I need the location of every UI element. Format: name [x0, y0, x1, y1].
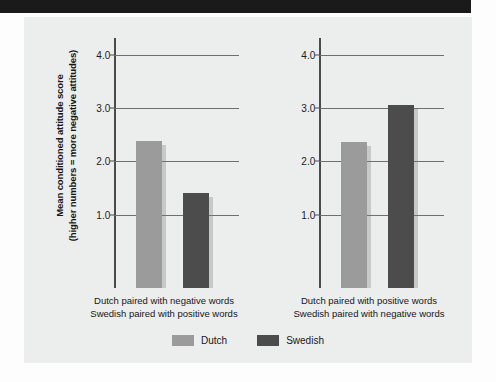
right-tickmark-3 — [315, 108, 320, 109]
right-y-axis-line — [319, 38, 321, 288]
chart-figure: Mean conditioned attitude score (higher … — [24, 17, 472, 363]
right-gridline-4 — [319, 55, 444, 56]
left-caption-line1: Dutch paired with negative words — [84, 294, 244, 307]
left-gridline-3 — [114, 108, 239, 109]
bar-right-dutch-body — [341, 142, 367, 288]
right-tickmark-4 — [315, 55, 320, 56]
left-ytick-label-4: 4.0 — [96, 50, 110, 61]
left-y-axis-line — [114, 38, 116, 288]
left-tickmark-2 — [110, 161, 115, 162]
legend-item-swedish[interactable]: Swedish — [257, 335, 324, 346]
bar-right-dutch[interactable] — [341, 142, 367, 288]
bar-right-swedish-body — [388, 105, 414, 288]
chart-legend: Dutch Swedish — [24, 335, 472, 346]
right-plot-area: 4.0 3.0 2.0 1.0 — [319, 38, 444, 288]
right-ytick-label-2: 2.0 — [301, 156, 315, 167]
right-gridline-3 — [319, 108, 444, 109]
bar-right-swedish[interactable] — [388, 105, 414, 288]
right-caption-line1: Dutch paired with positive words — [289, 294, 449, 307]
left-gridline-4 — [114, 55, 239, 56]
left-ytick-label-1: 1.0 — [96, 210, 110, 221]
left-ytick-label-2: 2.0 — [96, 156, 110, 167]
left-tickmark-4 — [110, 55, 115, 56]
right-gridline-2 — [319, 161, 444, 162]
right-caption-line2: Swedish paired with negative words — [289, 307, 449, 320]
legend-label-swedish: Swedish — [286, 335, 324, 346]
right-tickmark-1 — [315, 215, 320, 216]
bar-left-swedish[interactable] — [183, 193, 209, 288]
right-panel-caption: Dutch paired with positive words Swedish… — [289, 294, 449, 320]
legend-swatch-swedish-icon — [257, 335, 279, 346]
bar-left-dutch-shadow — [162, 145, 166, 288]
bar-left-swedish-shadow — [209, 197, 213, 288]
y-axis-title: Mean conditioned attitude score (higher … — [54, 46, 79, 246]
right-ytick-label-3: 3.0 — [301, 103, 315, 114]
right-gridline-1 — [319, 215, 444, 216]
bar-left-swedish-body — [183, 193, 209, 288]
left-tickmark-1 — [110, 215, 115, 216]
top-black-banner — [0, 0, 471, 13]
left-gridline-1 — [114, 215, 239, 216]
y-axis-title-line1: Mean conditioned attitude score — [54, 46, 67, 246]
y-axis-title-line2: (higher numbers = more negative attitude… — [66, 46, 79, 246]
bar-right-swedish-shadow — [414, 109, 418, 288]
right-tickmark-2 — [315, 161, 320, 162]
legend-item-dutch[interactable]: Dutch — [172, 335, 227, 346]
right-ytick-label-4: 4.0 — [301, 50, 315, 61]
figure-page: Mean conditioned attitude score (higher … — [0, 0, 496, 382]
left-panel-caption: Dutch paired with negative words Swedish… — [84, 294, 244, 320]
bar-right-dutch-shadow — [367, 146, 371, 288]
bar-left-dutch[interactable] — [136, 141, 162, 288]
right-ytick-label-1: 1.0 — [301, 210, 315, 221]
left-gridline-2 — [114, 161, 239, 162]
legend-swatch-dutch-icon — [172, 335, 194, 346]
left-tickmark-3 — [110, 108, 115, 109]
legend-label-dutch: Dutch — [201, 335, 227, 346]
bar-left-dutch-body — [136, 141, 162, 288]
left-caption-line2: Swedish paired with positive words — [84, 307, 244, 320]
left-ytick-label-3: 3.0 — [96, 103, 110, 114]
left-plot-area: 4.0 3.0 2.0 1.0 — [114, 38, 239, 288]
